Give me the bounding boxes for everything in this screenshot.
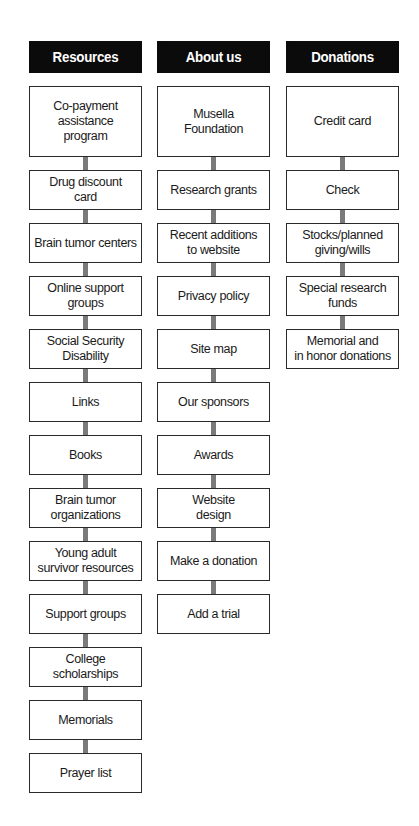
- node-privacy-policy: Privacy policy: [157, 276, 270, 316]
- node-special-research-funds: Special research funds: [286, 276, 399, 316]
- connector: [340, 210, 345, 223]
- node-brain-tumor-centers: Brain tumor centers: [29, 223, 142, 263]
- header-donations: Donations: [286, 41, 399, 73]
- connector: [83, 687, 88, 700]
- node-support-groups: Support groups: [29, 594, 142, 634]
- connector: [211, 475, 216, 488]
- connector: [83, 581, 88, 594]
- node-memorial-in-honor-donations: Memorial and in honor donations: [286, 329, 399, 369]
- connector: [211, 422, 216, 435]
- connector: [83, 157, 88, 170]
- node-young-adult-survivor-resources: Young adult survivor resources: [29, 541, 142, 581]
- node-drug-discount-card: Drug discount card: [29, 170, 142, 210]
- connector: [83, 210, 88, 223]
- node-links: Links: [29, 382, 142, 422]
- node-social-security-disability: Social Security Disability: [29, 329, 142, 369]
- connector: [211, 157, 216, 170]
- node-prayer-list: Prayer list: [29, 753, 142, 793]
- header-resources: Resources: [29, 41, 142, 73]
- connector: [211, 263, 216, 276]
- node-college-scholarships: College scholarships: [29, 647, 142, 687]
- connector: [83, 263, 88, 276]
- connector: [211, 528, 216, 541]
- column-about-us: About us Musella Foundation Research gra…: [157, 41, 270, 634]
- node-memorials: Memorials: [29, 700, 142, 740]
- connector: [211, 316, 216, 329]
- node-research-grants: Research grants: [157, 170, 270, 210]
- connector: [211, 210, 216, 223]
- connector: [340, 316, 345, 329]
- connector: [83, 422, 88, 435]
- node-check: Check: [286, 170, 399, 210]
- node-online-support-groups: Online support groups: [29, 276, 142, 316]
- connector: [211, 369, 216, 382]
- connector: [83, 316, 88, 329]
- node-recent-additions: Recent additions to website: [157, 223, 270, 263]
- node-make-a-donation: Make a donation: [157, 541, 270, 581]
- node-brain-tumor-organizations: Brain tumor organizations: [29, 488, 142, 528]
- node-add-a-trial: Add a trial: [157, 594, 270, 634]
- node-site-map: Site map: [157, 329, 270, 369]
- node-musella-foundation: Musella Foundation: [157, 86, 270, 157]
- connector: [83, 475, 88, 488]
- header-label: Resources: [34, 41, 138, 73]
- connector: [83, 369, 88, 382]
- node-awards: Awards: [157, 435, 270, 475]
- node-credit-card: Credit card: [286, 86, 399, 157]
- header-label: About us: [162, 41, 266, 73]
- node-copayment-assistance: Co-payment assistance program: [29, 86, 142, 157]
- connector: [340, 263, 345, 276]
- column-resources: Resources Co-payment assistance program …: [29, 41, 142, 793]
- connector: [340, 157, 345, 170]
- node-books: Books: [29, 435, 142, 475]
- connector: [83, 740, 88, 753]
- node-our-sponsors: Our sponsors: [157, 382, 270, 422]
- column-donations: Donations Credit card Check Stocks/plann…: [286, 41, 399, 369]
- header-label: Donations: [291, 41, 395, 73]
- header-about-us: About us: [157, 41, 270, 73]
- node-website-design: Website design: [157, 488, 270, 528]
- connector: [83, 528, 88, 541]
- connector: [83, 634, 88, 647]
- connector: [211, 581, 216, 594]
- node-stocks-planned-giving: Stocks/planned giving/wills: [286, 223, 399, 263]
